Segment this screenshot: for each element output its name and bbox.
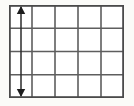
figure-root <box>0 0 134 106</box>
grid-diagram <box>9 5 124 98</box>
grid-svg <box>9 5 124 98</box>
